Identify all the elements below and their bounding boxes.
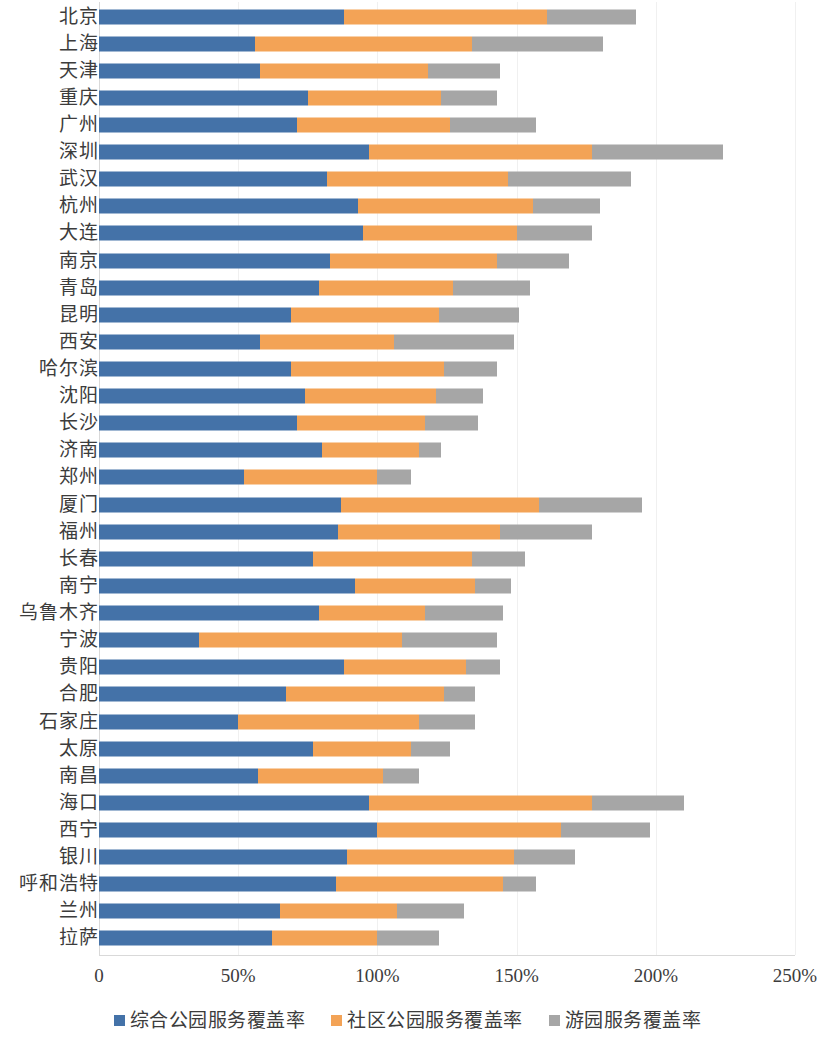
bar-segment-series-2 [199, 633, 402, 648]
bar-row: 天津 [0, 57, 815, 84]
bar-track [99, 199, 600, 214]
bar-track [99, 253, 569, 268]
bar-segment-series-3 [547, 9, 636, 24]
bar-segment-series-2 [347, 850, 514, 865]
category-label: 济南 [59, 440, 99, 460]
bar-segment-series-2 [291, 307, 439, 322]
x-axis-line [99, 955, 795, 956]
bar-segment-series-1 [99, 280, 319, 295]
bar-segment-series-1 [99, 822, 377, 837]
bar-segment-series-1 [99, 578, 355, 593]
x-axis: 050%100%150%200%250% [0, 955, 815, 997]
bar-row: 海口 [0, 789, 815, 816]
bar-track [99, 551, 525, 566]
category-label: 青岛 [59, 278, 99, 298]
bar-segment-series-2 [355, 578, 475, 593]
bar-segment-series-2 [305, 389, 436, 404]
bar-segment-series-1 [99, 795, 369, 810]
bar-segment-series-1 [99, 443, 322, 458]
bar-segment-series-3 [425, 606, 503, 621]
category-label: 宁波 [59, 630, 99, 650]
bar-track [99, 687, 475, 702]
category-label: 西安 [59, 332, 99, 352]
bar-segment-series-2 [297, 416, 425, 431]
bar-track [99, 36, 603, 51]
bar-segment-series-3 [500, 524, 592, 539]
category-label: 深圳 [59, 142, 99, 162]
bar-segment-series-3 [383, 768, 419, 783]
bar-row: 兰州 [0, 898, 815, 925]
bar-track [99, 90, 497, 105]
bar-row: 广州 [0, 111, 815, 138]
bar-segment-series-2 [258, 768, 383, 783]
bar-row: 昆明 [0, 301, 815, 328]
bar-segment-series-3 [397, 904, 464, 919]
bar-track [99, 578, 511, 593]
category-label: 银川 [59, 847, 99, 867]
bar-segment-series-3 [402, 633, 497, 648]
bar-track [99, 63, 500, 78]
category-label: 福州 [59, 522, 99, 542]
legend-item-1[interactable]: 综合公园服务覆盖率 [114, 1010, 306, 1031]
bar-segment-series-3 [439, 307, 520, 322]
bar-segment-series-1 [99, 877, 336, 892]
category-label: 石家庄 [39, 712, 99, 732]
category-label: 海口 [59, 793, 99, 813]
x-tick-label: 50% [221, 965, 256, 987]
bar-track [99, 850, 575, 865]
bar-segment-series-1 [99, 9, 344, 24]
bar-row: 西宁 [0, 816, 815, 843]
bar-segment-series-1 [99, 714, 238, 729]
bar-track [99, 660, 500, 675]
bar-segment-series-3 [503, 877, 536, 892]
bar-segment-series-2 [297, 118, 450, 133]
category-label: 广州 [59, 115, 99, 135]
bar-segment-series-3 [377, 470, 410, 485]
bar-segment-series-1 [99, 226, 363, 241]
bar-segment-series-3 [497, 253, 569, 268]
legend-item-2[interactable]: 社区公园服务覆盖率 [331, 1010, 523, 1031]
category-label: 郑州 [59, 467, 99, 487]
category-label: 拉萨 [59, 928, 99, 948]
bar-segment-series-2 [238, 714, 419, 729]
bar-segment-series-3 [441, 90, 497, 105]
bar-segment-series-3 [472, 551, 525, 566]
bar-segment-series-2 [313, 551, 472, 566]
bar-segment-series-2 [291, 362, 444, 377]
bar-row: 福州 [0, 518, 815, 545]
bar-segment-series-2 [308, 90, 442, 105]
category-label: 长春 [59, 549, 99, 569]
bar-segment-series-3 [436, 389, 483, 404]
category-label: 沈阳 [59, 386, 99, 406]
bar-segment-series-1 [99, 416, 297, 431]
bar-segment-series-3 [444, 362, 497, 377]
bar-segment-series-2 [319, 280, 453, 295]
bar-segment-series-3 [592, 145, 723, 160]
category-label: 上海 [59, 34, 99, 54]
bar-track [99, 443, 441, 458]
bar-track [99, 633, 497, 648]
bar-segment-series-1 [99, 334, 260, 349]
bar-segment-series-3 [592, 795, 684, 810]
bar-segment-series-3 [419, 714, 475, 729]
category-label: 厦门 [59, 495, 99, 515]
bar-track [99, 497, 642, 512]
bar-segment-series-3 [444, 687, 475, 702]
bar-segment-series-2 [369, 795, 592, 810]
bar-segment-series-3 [533, 199, 600, 214]
bar-track [99, 226, 592, 241]
bar-segment-series-3 [453, 280, 531, 295]
category-label: 长沙 [59, 413, 99, 433]
bar-row: 石家庄 [0, 708, 815, 735]
legend-label: 游园服务覆盖率 [565, 1010, 702, 1031]
bar-segment-series-3 [425, 416, 478, 431]
legend-swatch-icon [549, 1015, 560, 1026]
bar-segment-series-2 [260, 63, 427, 78]
bar-row: 拉萨 [0, 925, 815, 952]
bar-segment-series-1 [99, 551, 313, 566]
bar-segment-series-1 [99, 524, 338, 539]
bar-segment-series-2 [280, 904, 397, 919]
bar-track [99, 389, 483, 404]
legend-item-3[interactable]: 游园服务覆盖率 [549, 1010, 702, 1031]
category-label: 太原 [59, 739, 99, 759]
